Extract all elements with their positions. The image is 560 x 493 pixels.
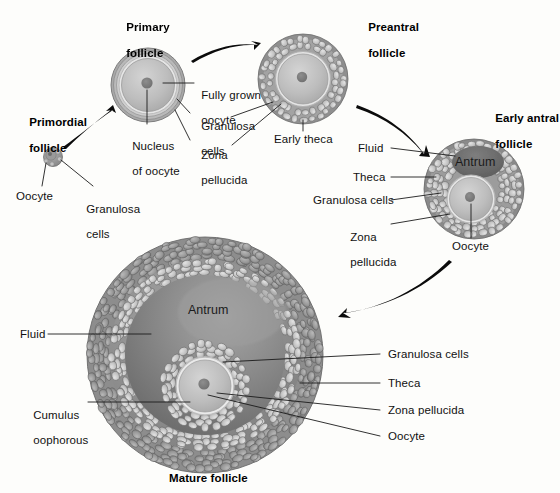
label-antral-zona-pellucida: Zona pellucida <box>337 218 396 281</box>
label-antral-fluid: Fluid <box>358 142 383 155</box>
heading-primary-line2: follicle <box>126 47 163 59</box>
label-antral-antrum: Antrum <box>455 155 495 169</box>
heading-primary-follicle: Primary follicle <box>113 8 170 73</box>
label-primary-zona-pellucida: Zona pellucida <box>188 136 247 199</box>
heading-primordial-line2: follicle <box>29 142 66 154</box>
mature-follicle-art <box>86 236 323 473</box>
label-antral-oocyte: Oocyte <box>452 240 489 253</box>
label-mature-granulosa-cells: Granulosa cells <box>388 348 469 361</box>
label-primary-zona-line2: pellucida <box>201 174 247 186</box>
heading-early-antral-line2: follicle <box>495 138 532 150</box>
label-primary-zona-line1: Zona <box>201 149 228 161</box>
label-antral-theca: Theca <box>353 171 385 184</box>
label-primary-granulosa-line1: Granulosa <box>201 120 255 132</box>
preantral-follicle-art <box>258 34 348 124</box>
label-mature-cumulus-oophorous: Cumulus oophorous <box>20 396 88 459</box>
heading-preantral-line2: follicle <box>368 47 405 59</box>
label-mature-antrum: Antrum <box>188 303 228 317</box>
label-preantral-early-theca: Early theca <box>274 133 333 146</box>
heading-mature-follicle: Mature follicle <box>169 472 248 485</box>
label-mature-cumulus-line2: oophorous <box>33 434 88 446</box>
label-antral-zona-line2: pellucida <box>350 256 396 268</box>
label-primordial-oocyte: Oocyte <box>16 190 53 203</box>
heading-primordial-line1: Primordial <box>29 116 87 128</box>
label-mature-theca: Theca <box>388 377 420 390</box>
label-primordial-granulosa-line2: cells <box>86 228 110 240</box>
label-mature-cumulus-line1: Cumulus <box>33 409 79 421</box>
arrow-primary-to-preantral <box>191 41 261 63</box>
label-primary-fully-grown-line1: Fully grown <box>201 89 261 101</box>
label-antral-granulosa-cells: Granulosa cells <box>313 194 394 207</box>
label-primary-nucleus-line1: Nucleus <box>132 140 174 152</box>
heading-primary-line1: Primary <box>126 21 170 33</box>
heading-preantral-follicle: Preantral follicle <box>355 8 419 73</box>
label-mature-fluid: Fluid <box>20 328 45 341</box>
label-primary-nucleus-of-oocyte: Nucleus of oocyte <box>119 127 180 190</box>
heading-early-antral-line1: Early antral <box>495 112 559 124</box>
label-primordial-granulosa-cells: Granulosa cells <box>73 190 140 253</box>
label-primary-nucleus-line2: of oocyte <box>132 165 180 177</box>
follicle-development-diagram: Primordial follicle Primary follicle Pre… <box>0 0 560 493</box>
label-mature-oocyte: Oocyte <box>388 430 425 443</box>
heading-primordial-follicle: Primordial follicle <box>16 103 87 168</box>
label-antral-zona-line1: Zona <box>350 231 377 243</box>
label-primordial-granulosa-line1: Granulosa <box>86 203 140 215</box>
heading-preantral-line1: Preantral <box>368 21 419 33</box>
label-mature-zona-pellucida: Zona pellucida <box>388 404 464 417</box>
